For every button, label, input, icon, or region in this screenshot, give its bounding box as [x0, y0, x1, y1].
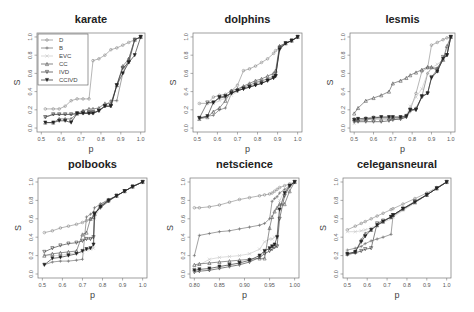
y-tick-label: 0.6 — [340, 70, 346, 78]
x-tick-label: 0.95 — [264, 282, 275, 288]
y-tick-label: 0.8 — [183, 51, 189, 59]
y-tick-label: 1.0 — [28, 178, 34, 186]
x-tick-label: 0.6 — [214, 136, 222, 142]
x-tick-label: 0.5 — [343, 282, 351, 288]
y-tick-label: 0.2 — [180, 252, 186, 260]
y-axis-label: S — [165, 225, 175, 231]
y-tick-label: 0.4 — [27, 88, 33, 96]
x-axis-label: p — [400, 144, 405, 154]
y-tick-label: 0.8 — [27, 51, 33, 59]
series-cc — [353, 35, 453, 115]
figure-canvas: karate0.50.60.70.80.91.00.00.20.40.60.81… — [0, 0, 474, 312]
series-d — [198, 36, 299, 105]
x-tick-label: 1.0 — [137, 136, 145, 142]
y-tick-label: 0.2 — [333, 252, 339, 260]
legend-label: D — [59, 37, 64, 43]
series-ccivd — [353, 35, 453, 121]
x-axis-label: p — [245, 144, 250, 154]
series-evc — [193, 180, 296, 268]
x-tick-label: 1.0 — [294, 136, 302, 142]
x-axis-label: p — [90, 290, 95, 300]
y-tick-label: 0.2 — [27, 106, 33, 114]
series-b — [198, 35, 299, 119]
x-tick-label: 0.8 — [99, 282, 107, 288]
y-tick-label: 0.0 — [180, 270, 186, 278]
x-tick-label: 1.0 — [139, 282, 147, 288]
y-tick-label: 0.2 — [183, 106, 189, 114]
series-cc — [346, 180, 449, 255]
y-tick-label: 0.4 — [340, 88, 346, 96]
y-tick-label: 0.0 — [333, 270, 339, 278]
y-tick-label: 0.0 — [28, 270, 34, 278]
x-tick-label: 0.5 — [194, 136, 202, 142]
series-d — [353, 36, 452, 121]
y-tick-label: 0.0 — [183, 124, 189, 132]
x-tick-label: 1.0 — [443, 282, 451, 288]
x-axis-label: p — [242, 290, 247, 300]
x-tick-label: 0.9 — [423, 282, 431, 288]
y-tick-label: 1.0 — [27, 33, 33, 41]
legend-label: B — [59, 45, 63, 51]
y-tick-label: 0.0 — [27, 124, 33, 132]
x-tick-label: 0.85 — [214, 282, 225, 288]
x-tick-label: 0.7 — [234, 136, 242, 142]
y-tick-label: 0.4 — [183, 88, 189, 96]
y-axis-label: S — [325, 79, 335, 85]
chart-lesmis: lesmis0.50.60.70.80.91.00.00.20.40.60.81… — [325, 13, 455, 154]
y-tick-label: 0.0 — [340, 124, 346, 132]
y-tick-label: 0.6 — [183, 70, 189, 78]
y-tick-label: 0.6 — [333, 215, 339, 223]
x-tick-label: 0.8 — [408, 136, 416, 142]
plot-frame — [38, 178, 147, 278]
x-tick-label: 0.9 — [119, 282, 127, 288]
x-tick-label: 0.5 — [39, 282, 47, 288]
chart-karate: karate0.50.60.70.80.91.00.00.20.40.60.81… — [12, 13, 145, 154]
x-tick-label: 0.5 — [350, 136, 358, 142]
y-tick-label: 0.8 — [340, 51, 346, 59]
chart-title: lesmis — [385, 13, 419, 25]
legend: DBEVCCCIVDCCIVD — [38, 34, 88, 85]
y-axis-label: S — [12, 79, 22, 85]
y-tick-label: 1.0 — [183, 33, 189, 41]
series-b — [353, 35, 453, 122]
y-tick-label: 0.6 — [180, 215, 186, 223]
plot-frame — [193, 33, 302, 132]
x-tick-label: 0.90 — [239, 282, 250, 288]
chart-title: polbooks — [68, 158, 117, 170]
y-tick-label: 0.2 — [28, 252, 34, 260]
series-cc — [198, 35, 299, 120]
series-evc — [198, 35, 299, 105]
x-tick-label: 0.6 — [57, 136, 65, 142]
chart-title: dolphins — [225, 13, 271, 25]
legend-label: EVC — [59, 53, 72, 59]
legend-label: CCIVD — [59, 77, 78, 83]
x-tick-label: 0.7 — [383, 282, 391, 288]
chart-title: karate — [75, 13, 107, 25]
x-tick-label: 0.8 — [254, 136, 262, 142]
x-tick-label: 0.80 — [189, 282, 200, 288]
chart-dolphins: dolphins0.50.60.70.80.91.00.00.20.40.60.… — [168, 13, 302, 154]
x-tick-label: 0.6 — [370, 136, 378, 142]
x-axis-label: p — [88, 144, 93, 154]
x-tick-label: 0.7 — [79, 282, 87, 288]
y-tick-label: 0.4 — [28, 233, 34, 241]
y-axis-label: S — [168, 79, 178, 85]
y-tick-label: 0.6 — [27, 70, 33, 78]
series-ccivd — [346, 180, 449, 255]
x-axis-label: p — [394, 290, 399, 300]
y-axis-label: S — [318, 225, 328, 231]
x-tick-label: 0.6 — [59, 282, 67, 288]
series-b — [43, 180, 144, 266]
y-tick-label: 0.4 — [180, 233, 186, 241]
series-ivd — [353, 35, 453, 123]
series-ccivd — [198, 35, 299, 119]
chart-title: netscience — [216, 158, 273, 170]
x-tick-label: 0.5 — [37, 136, 45, 142]
chart-title: celegansneural — [357, 158, 437, 170]
y-axis-label: S — [13, 225, 23, 231]
chart-netscience: netscience0.800.850.900.951.000.00.20.40… — [165, 158, 300, 300]
y-tick-label: 0.8 — [180, 197, 186, 205]
series-ivd — [198, 35, 299, 119]
y-tick-label: 1.0 — [333, 178, 339, 186]
x-tick-label: 0.8 — [97, 136, 105, 142]
